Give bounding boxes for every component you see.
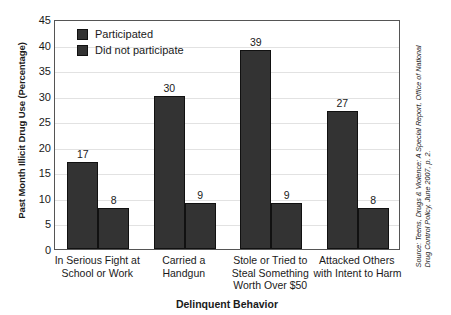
legend-item[interactable]: Participated bbox=[77, 29, 184, 40]
y-axis-tick-30: 30 bbox=[39, 92, 51, 102]
bar[interactable] bbox=[154, 96, 185, 249]
y-axis-tick-20: 20 bbox=[39, 143, 51, 153]
legend-item[interactable]: Did not participate bbox=[77, 45, 184, 56]
bar-value-label: 9 bbox=[197, 189, 203, 201]
bar-value-label: 8 bbox=[111, 194, 117, 206]
bar[interactable] bbox=[240, 50, 271, 249]
bar[interactable] bbox=[327, 111, 358, 249]
bar-group: 399 bbox=[240, 21, 302, 249]
bar-value-label: 17 bbox=[77, 148, 89, 160]
legend-swatch-icon bbox=[77, 45, 88, 56]
bar-value-label: 9 bbox=[284, 189, 290, 201]
x-axis-category-label: In Serious Fight atSchool or Work bbox=[54, 254, 141, 279]
bar-value-label: 39 bbox=[250, 36, 262, 48]
bar-chart-figure: Past Month Illicit Drug Use (Percentage)… bbox=[0, 0, 451, 315]
x-axis-category-label: Stole or Tried toSteal SomethingWorth Ov… bbox=[227, 254, 314, 292]
x-axis-tick-labels: In Serious Fight atSchool or WorkCarried… bbox=[54, 254, 400, 300]
y-axis-tick-0: 0 bbox=[45, 245, 51, 255]
bar-value-label: 8 bbox=[370, 194, 376, 206]
y-axis-tick-5: 5 bbox=[45, 219, 51, 229]
legend-label: Participated bbox=[95, 29, 153, 40]
y-axis-tick-25: 25 bbox=[39, 117, 51, 127]
bar[interactable] bbox=[185, 203, 216, 249]
x-axis-category-label: Attacked Otherswith Intent to Harm bbox=[314, 254, 401, 279]
source-note: Source: Teens, Drugs & Violence: A Speci… bbox=[414, 17, 433, 267]
x-axis-category-label: Carried aHandgun bbox=[141, 254, 228, 279]
source-note-line-1: Source: Teens, Drugs & Violence: A Speci… bbox=[414, 17, 423, 267]
legend-label: Did not participate bbox=[95, 45, 184, 56]
y-axis-tick-35: 35 bbox=[39, 66, 51, 76]
y-axis-tick-15: 15 bbox=[39, 168, 51, 178]
bar[interactable] bbox=[358, 208, 389, 249]
bar[interactable] bbox=[271, 203, 302, 249]
legend: ParticipatedDid not participate bbox=[77, 29, 184, 56]
bar-group: 278 bbox=[327, 21, 389, 249]
plot-area: 178309399278 ParticipatedDid not partici… bbox=[54, 20, 400, 250]
y-axis-tick-45: 45 bbox=[39, 15, 51, 25]
bar[interactable] bbox=[98, 208, 129, 249]
bar-value-label: 30 bbox=[163, 82, 175, 94]
x-axis-title: Delinquent Behavior bbox=[54, 298, 400, 310]
y-axis-tick-labels: 454035302520151050 bbox=[19, 10, 51, 250]
bar[interactable] bbox=[67, 162, 98, 249]
legend-swatch-icon bbox=[77, 29, 88, 40]
source-note-line-2: Drug Control Policy, June 2007, p. 2. bbox=[423, 17, 432, 267]
y-axis-tick-10: 10 bbox=[39, 194, 51, 204]
y-axis-tick-40: 40 bbox=[39, 41, 51, 51]
bar-value-label: 27 bbox=[336, 97, 348, 109]
